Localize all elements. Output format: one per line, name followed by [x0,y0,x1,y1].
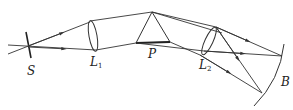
label-lens1-sub: 1 [98,62,102,70]
lens-l1 [86,20,99,52]
label-lens1: L [89,55,98,69]
dispersed-rays [136,12,282,93]
optics-diagram: S L 1 P L 2 B [0,0,293,110]
screen-b [254,44,284,106]
label-lens2: L [198,58,207,72]
incoming-rays [8,22,96,54]
label-screen: B [280,75,290,89]
label-slit: S [27,64,35,78]
label-prism: P [147,47,157,61]
label-lens2-sub: 2 [207,65,211,73]
prism [136,12,170,43]
